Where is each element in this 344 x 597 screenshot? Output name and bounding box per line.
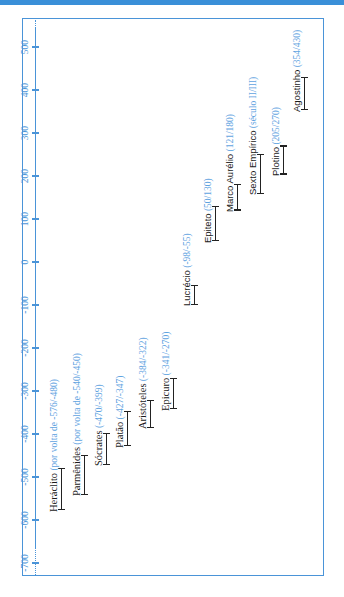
axis-tick-label: 500 — [19, 32, 31, 62]
tick-label-text: -200 — [20, 339, 30, 356]
entry-label: Epiteto (50/130) — [202, 178, 214, 243]
tick-label-text: -700 — [20, 554, 30, 571]
philosopher-name: Epiteto — [202, 213, 213, 243]
axis-tick-label: 100 — [19, 204, 31, 234]
axis-tick — [32, 132, 39, 133]
axis-tick — [32, 304, 39, 305]
entry-label: Agostinho (354/430) — [291, 30, 303, 112]
tick-label-text: 400 — [20, 83, 30, 97]
axis-tick-label: 400 — [19, 75, 31, 105]
lifespan-dates: (-98/-55) — [182, 234, 192, 271]
lifespan-dates: (205/270) — [271, 107, 281, 147]
philosopher-name: Parmênides — [71, 447, 82, 496]
axis-tick-label: -100 — [19, 290, 31, 320]
axis-tick-label: -600 — [19, 505, 31, 535]
lifespan-bar — [173, 378, 174, 409]
lifespan-bar — [61, 468, 62, 509]
entry-label: Parmênides (por volta de -540/-450) — [71, 353, 83, 496]
axis-tick — [32, 46, 39, 47]
lifespan-dates: (-341/-270) — [161, 331, 171, 377]
lifespan-bar — [283, 146, 284, 174]
philosopher-name: Sócrates — [93, 431, 104, 467]
tick-label-text: -100 — [20, 296, 30, 313]
philosopher-name: Lucrécio — [181, 270, 192, 306]
tick-label-text: -400 — [20, 425, 30, 442]
entry-label: Marco Aurélio (121/180) — [224, 114, 236, 212]
lifespan-dates: (-384/-322) — [138, 337, 148, 383]
lifespan-bar — [127, 411, 128, 445]
entry-label: Heráclito (por volta de -576/-480) — [48, 379, 60, 512]
tick-label-text: 100 — [20, 212, 30, 226]
entry-label: Plotino (205/270) — [270, 107, 282, 176]
entry-label: Platão (-427/-347) — [114, 375, 126, 447]
philosopher-name: Heráclito — [48, 473, 59, 512]
lifespan-bar — [215, 206, 216, 240]
axis-tick — [32, 175, 39, 176]
lifespan-bar — [237, 185, 238, 210]
axis-dotted-extension-top — [35, 20, 36, 28]
philosopher-name: Agostinho — [291, 70, 302, 112]
axis-tick — [32, 89, 39, 90]
axis-tick-label: 0 — [19, 247, 31, 277]
lifespan-bar — [150, 400, 151, 427]
chart-frame — [22, 18, 324, 576]
lifespan-dates: (-427/-347) — [115, 375, 125, 421]
philosopher-name: Sexto Empírico — [247, 131, 258, 195]
lifespan-dates: (século II/III) — [248, 77, 258, 131]
lifespan-bar — [260, 155, 261, 194]
tick-label-text: -500 — [20, 468, 30, 485]
entry-label: Lucrécio (-98/-55) — [181, 234, 193, 307]
tick-label-text: 0 — [20, 260, 30, 265]
tick-label-text: 200 — [20, 169, 30, 183]
axis-tick — [32, 390, 39, 391]
philosopher-name: Epicuro — [160, 377, 171, 410]
axis-tick-label: -700 — [19, 548, 31, 578]
tick-label-text: -600 — [20, 511, 30, 528]
lifespan-dates: (por volta de -540/-450) — [72, 353, 82, 447]
entry-label: Sócrates (-470/-399) — [93, 384, 105, 466]
axis-tick — [32, 261, 39, 262]
lifespan-bar — [106, 434, 107, 465]
lifespan-dates: (50/130) — [203, 178, 213, 213]
tick-label-text: 300 — [20, 126, 30, 140]
axis-tick-label: -400 — [19, 419, 31, 449]
entry-label: Aristóteles (-384/-322) — [137, 337, 149, 429]
tick-label-text: 500 — [20, 40, 30, 54]
axis-tick-label: -500 — [19, 462, 31, 492]
axis-tick — [32, 562, 39, 563]
lifespan-dates: (121/180) — [225, 114, 235, 154]
lifespan-bar — [194, 286, 195, 304]
tick-label-text: -300 — [20, 382, 30, 399]
axis-tick-label: 200 — [19, 161, 31, 191]
entry-label: Epicuro (-341/-270) — [160, 331, 172, 410]
lifespan-dates: (-470/-399) — [94, 384, 104, 430]
axis-tick-label: -200 — [19, 333, 31, 363]
top-color-band — [0, 0, 344, 5]
axis-tick — [32, 519, 39, 520]
axis-tick — [32, 218, 39, 219]
time-axis — [35, 28, 36, 548]
philosopher-name: Aristóteles — [137, 384, 148, 430]
axis-tick-label: -300 — [19, 376, 31, 406]
lifespan-bar — [304, 77, 305, 110]
entry-label: Sexto Empírico (século II/III) — [247, 77, 259, 195]
philosopher-name: Plotino — [270, 147, 281, 176]
axis-tick-label: 300 — [19, 118, 31, 148]
axis-tick — [32, 347, 39, 348]
axis-tick — [32, 433, 39, 434]
axis-tick — [32, 476, 39, 477]
philosopher-name: Marco Aurélio — [224, 154, 235, 212]
lifespan-bar — [84, 456, 85, 495]
philosopher-name: Platão — [114, 421, 125, 447]
lifespan-dates: (por volta de -576/-480) — [49, 379, 59, 473]
lifespan-dates: (354/430) — [292, 30, 302, 70]
